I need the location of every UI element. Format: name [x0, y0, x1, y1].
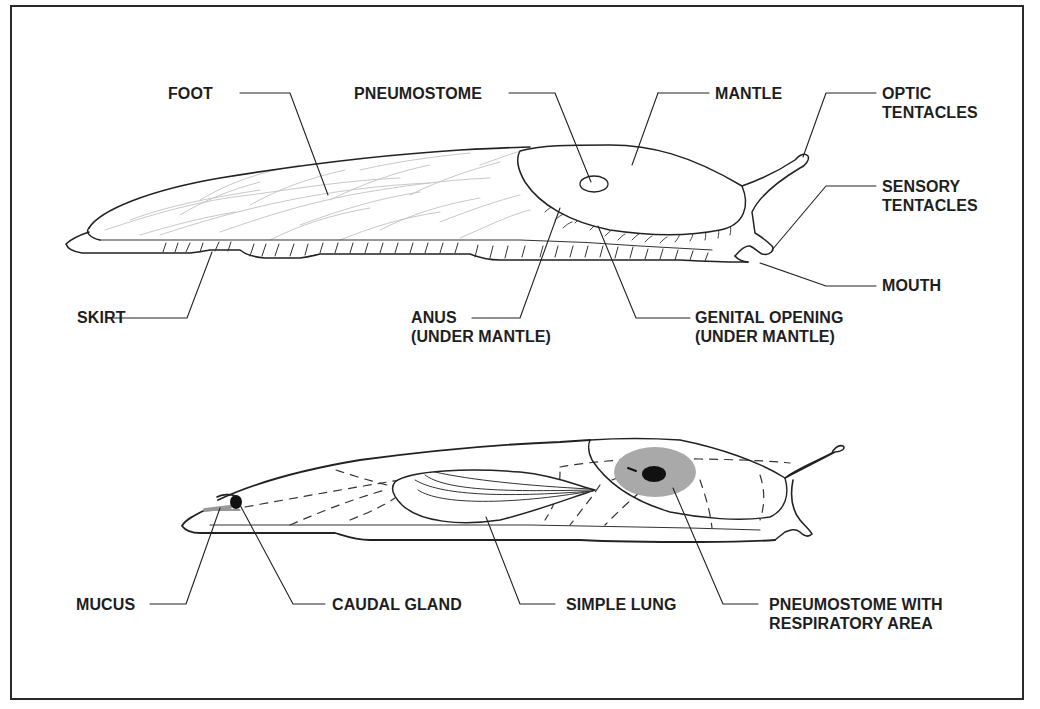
label-optic-tentacles: OPTIC TENTACLES: [882, 84, 978, 122]
top-slug: [66, 145, 808, 262]
caudal-gland-dot: [230, 495, 242, 509]
bottom-slug: [182, 439, 844, 543]
label-sensory-tentacles: SENSORY TENTACLES: [882, 177, 978, 215]
pneumostome-dot: [642, 466, 666, 482]
label-foot: FOOT: [168, 84, 213, 103]
label-pneumostome: PNEUMOSTOME: [354, 84, 482, 103]
label-mucus: MUCUS: [76, 595, 135, 614]
label-simple-lung: SIMPLE LUNG: [566, 595, 676, 614]
label-mantle: MANTLE: [715, 84, 782, 103]
pneumostome-hole: [580, 176, 608, 192]
foot-outline: [89, 147, 530, 228]
label-anus: ANUS (UNDER MANTLE): [411, 308, 551, 346]
optic-tentacle-bottom: [785, 446, 844, 478]
label-pneumostome-respiratory: PNEUMOSTOME WITH RESPIRATORY AREA: [769, 595, 943, 633]
label-genital-opening: GENITAL OPENING (UNDER MANTLE): [695, 308, 843, 346]
label-caudal-gland: CAUDAL GLAND: [332, 595, 462, 614]
simple-lung: [392, 470, 595, 522]
mantle-shape: [518, 145, 746, 235]
label-skirt: SKIRT: [77, 308, 126, 327]
leader-lines-top: [110, 93, 876, 318]
label-mouth: MOUTH: [882, 276, 941, 295]
